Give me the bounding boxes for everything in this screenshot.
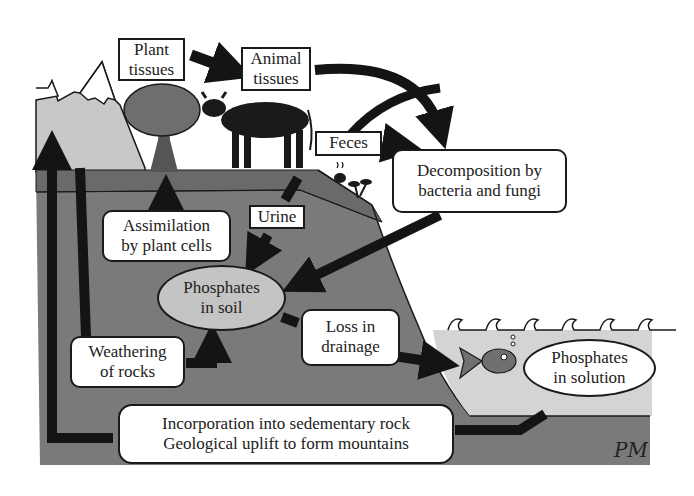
label-text: bacteria and fungi	[394, 181, 565, 201]
label-text: Loss in	[303, 317, 398, 337]
arrow-animal-to-decomposition	[315, 69, 440, 130]
artist-signature: PM	[614, 438, 648, 462]
label-text: Phosphates	[525, 348, 654, 368]
label-text: tissues	[120, 60, 183, 80]
label-text: Assimilation	[104, 216, 229, 236]
label-text: Phosphates	[159, 278, 284, 298]
label-text: Plant	[120, 40, 183, 60]
arrow-mountain-to-weathering	[80, 168, 86, 337]
label-plant-tissues: Plant tissues	[118, 38, 185, 81]
label-decomposition: Decomposition by bacteria and fungi	[392, 149, 567, 213]
cow-icon	[202, 92, 312, 168]
label-text: tissues	[243, 69, 309, 89]
label-text: of rocks	[72, 362, 183, 382]
label-text: by plant cells	[104, 236, 229, 256]
label-feces: Feces	[315, 131, 382, 156]
label-text: Feces	[317, 133, 380, 153]
label-text: Urine	[251, 207, 303, 227]
label-text: drainage	[303, 337, 398, 357]
label-text: Weathering	[72, 342, 183, 362]
arrow-feces-to-decomposition	[384, 143, 402, 146]
label-animal-tissues: Animal tissues	[241, 47, 311, 91]
label-text: Decomposition by	[394, 161, 565, 181]
label-sedimentary-rock: Incorporation into sedementary rock Geol…	[118, 404, 454, 464]
label-text: in soil	[159, 298, 284, 318]
label-loss-in-drainage: Loss in drainage	[301, 309, 400, 366]
label-urine: Urine	[249, 205, 305, 229]
label-text: Animal	[243, 49, 309, 69]
arrow-soil-to-loss	[282, 317, 298, 323]
arrow-plant-to-animal	[191, 55, 232, 70]
label-phosphates-in-soil: Phosphates in soil	[157, 265, 286, 331]
label-text: Geological uplift to form mountains	[120, 434, 452, 454]
label-assimilation: Assimilation by plant cells	[102, 210, 231, 262]
arrow-loss-to-sea	[394, 356, 440, 363]
label-text: in solution	[525, 368, 654, 388]
label-phosphates-in-solution: Phosphates in solution	[523, 339, 656, 397]
label-weathering-of-rocks: Weathering of rocks	[70, 336, 185, 388]
label-text: Incorporation into sedementary rock	[120, 414, 452, 434]
